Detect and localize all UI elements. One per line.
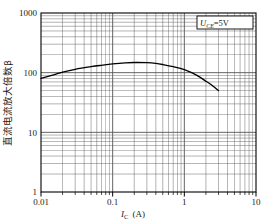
svg-text:IC (A): IC (A) (120, 209, 145, 220)
y-tick-label: 1000 (19, 8, 38, 18)
x-tick-label: 1 (182, 197, 187, 207)
beta-vs-collector-current-chart: 0.010.1110 1101001000 IC (A) 直流电流放大倍数β U… (0, 0, 266, 224)
figure-background (0, 0, 266, 224)
y-tick-label: 100 (24, 68, 38, 78)
x-tick-label: 0.1 (107, 197, 118, 207)
legend-box: UCE=5V (197, 16, 253, 29)
x-axis-label: IC (A) (120, 209, 145, 220)
x-tick-label: 10 (252, 197, 262, 207)
y-tick-label: 10 (28, 128, 38, 138)
y-tick-label: 1 (33, 187, 38, 197)
y-axis-label: 直流电流放大倍数β (2, 60, 13, 146)
svg-text:直流电流放大倍数β: 直流电流放大倍数β (2, 60, 13, 146)
x-tick-label: 0.01 (33, 197, 49, 207)
legend-entry-0: UCE=5V (200, 18, 230, 29)
